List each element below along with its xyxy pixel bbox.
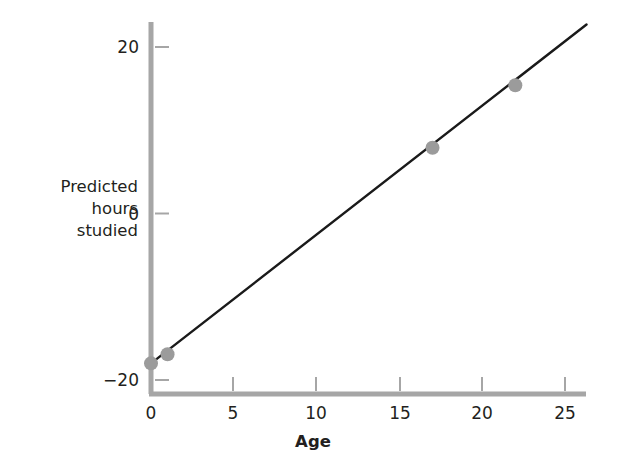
x-tick-label-15: 15 <box>389 405 411 422</box>
x-tick-label-20: 20 <box>471 405 493 422</box>
data-point <box>161 347 175 361</box>
data-point <box>508 78 522 92</box>
x-tick-label-25: 25 <box>554 405 576 422</box>
regression-line <box>151 25 587 364</box>
chart-figure: 20 0 −20 0 5 10 15 20 25 Predicted hours… <box>0 0 626 469</box>
y-axis-title: Predicted hours studied <box>16 176 138 241</box>
data-point-markers <box>144 78 522 370</box>
data-point <box>426 141 440 155</box>
x-tick-label-0: 0 <box>146 405 157 422</box>
x-axis-ticks <box>151 377 565 391</box>
y-tick-label-neg20: −20 <box>103 372 139 389</box>
x-tick-label-10: 10 <box>305 405 327 422</box>
data-point <box>144 356 158 370</box>
y-axis-ticks <box>155 47 169 380</box>
y-axis-title-line-3: studied <box>16 220 138 242</box>
y-tick-label-20: 20 <box>117 39 139 56</box>
x-tick-label-5: 5 <box>228 405 239 422</box>
y-axis-title-line-2: hours <box>16 198 138 220</box>
y-axis-title-line-1: Predicted <box>16 176 138 198</box>
x-axis-title: Age <box>0 432 626 451</box>
